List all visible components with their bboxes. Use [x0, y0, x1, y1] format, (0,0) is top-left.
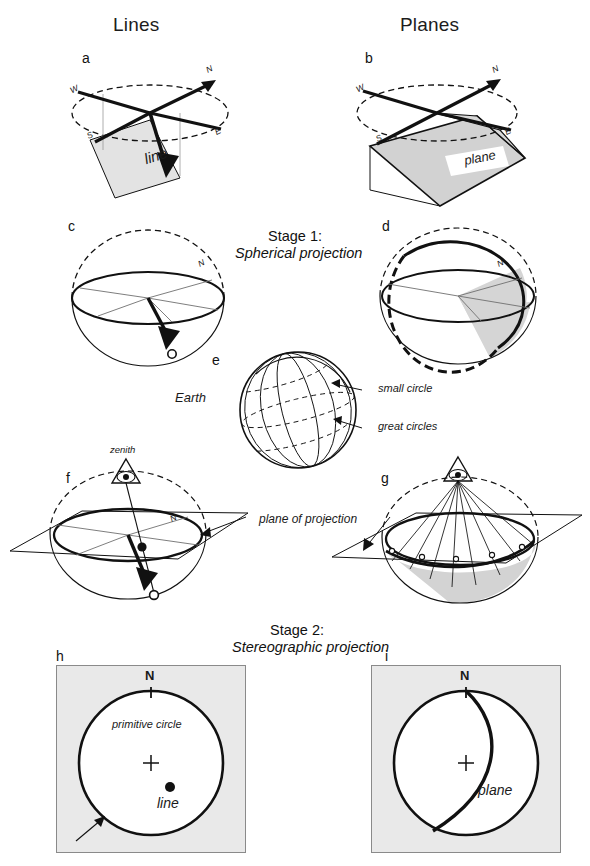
panel-letter-e: e — [212, 352, 220, 368]
arrowhead-line-c — [158, 326, 180, 350]
annotation-plane-i: plane — [478, 782, 512, 798]
annotation-small-circle: small circle — [378, 382, 432, 394]
projected-node-g1 — [389, 548, 394, 553]
annotation-earth: Earth — [175, 390, 206, 405]
projection-plane-g — [332, 513, 582, 563]
panel-f-drawing — [8, 455, 258, 615]
projected-point-f — [137, 542, 146, 551]
column-heading-planes: Planes — [400, 14, 459, 36]
projection-ray-g2 — [410, 481, 458, 569]
panel-b-drawing — [325, 58, 555, 208]
column-heading-lines: Lines — [113, 14, 159, 36]
arrowhead-line-f — [136, 567, 158, 591]
annotation-zenith: zenith — [110, 444, 135, 455]
panel-h-drawing — [56, 665, 246, 853]
stage-2-subheading: Stereographic projection — [232, 639, 362, 656]
panel-letter-i: i — [385, 648, 388, 664]
axis-west-b — [363, 91, 437, 113]
projection-ray-g1 — [392, 481, 458, 561]
projection-ray-g6 — [458, 481, 500, 575]
projected-node-g4 — [489, 552, 494, 557]
plane-shading-lower-d — [458, 296, 530, 358]
plane-shading-g — [386, 541, 535, 603]
annotation-line-h: line — [157, 795, 179, 811]
piercing-point-c — [168, 350, 176, 358]
projected-node-g5 — [519, 544, 524, 549]
radius-e-f — [128, 535, 198, 545]
piercing-point-f — [150, 591, 159, 600]
panel-a-drawing — [40, 58, 260, 198]
stage-2-heading: Stage 2: — [232, 622, 362, 639]
stage-1-subheading: Spherical projection — [235, 245, 355, 262]
arrowhead-plane-of-projection-g — [363, 538, 374, 551]
zenith-eye-pupil-f — [123, 474, 129, 480]
radius-s-f — [76, 535, 128, 555]
figure-root: Lines Planes Stage 1: Spherical projecti… — [0, 0, 590, 866]
radius-w-c — [80, 288, 148, 298]
earth-sphere-outline — [240, 352, 356, 468]
arrowhead-primitive-circle-h — [94, 816, 105, 827]
panel-letter-h: h — [56, 648, 64, 664]
projection-ray-g4 — [452, 481, 458, 587]
north-label-i: N — [460, 668, 469, 683]
radius-n-c — [148, 280, 212, 298]
axis-north-b — [437, 82, 497, 113]
projected-node-g3 — [453, 556, 458, 561]
annotation-primitive-circle: primitive circle — [112, 718, 182, 730]
equatorial-circle-g — [386, 513, 534, 565]
panel-g-drawing — [330, 455, 590, 620]
panel-d-drawing — [370, 228, 550, 368]
panel-i-drawing — [371, 665, 561, 853]
axis-west-a — [78, 92, 150, 113]
radius-w-d — [388, 284, 458, 296]
stage-1-heading: Stage 1: — [235, 228, 355, 245]
panel-c-drawing — [60, 230, 235, 365]
north-label-h: N — [145, 668, 154, 683]
annotation-great-circles: great circles — [378, 420, 437, 432]
projected-node-g2 — [419, 554, 424, 559]
projection-ray-g5 — [458, 481, 476, 585]
plunging-line-c — [148, 298, 166, 332]
stage-2-caption: Stage 2: Stereographic projection — [232, 622, 362, 656]
radius-w-f — [58, 525, 128, 535]
line-point-h — [165, 782, 175, 792]
radius-s-c — [98, 298, 148, 316]
plunging-line-f — [128, 535, 144, 573]
stage-1-caption: Stage 1: Spherical projection — [235, 228, 355, 262]
axis-east-a — [150, 113, 221, 129]
great-circle-trace-g — [386, 541, 534, 567]
lower-hemisphere-c — [72, 298, 224, 366]
